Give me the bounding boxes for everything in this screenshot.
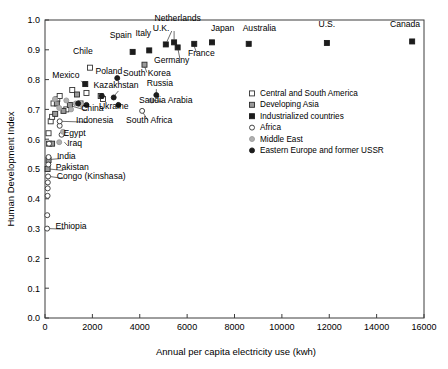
point-label: U.K. (153, 23, 170, 33)
data-point (46, 155, 51, 160)
data-point (64, 98, 69, 103)
x-tick-label: 0 (42, 322, 47, 332)
data-point (140, 108, 145, 113)
data-point (209, 40, 214, 45)
y-tick-label: 0.8 (27, 75, 40, 85)
x-tick-label: 4000 (130, 322, 150, 332)
point-label: Japan (211, 23, 235, 33)
legend-marker (250, 148, 255, 153)
point-label: South Africa (126, 115, 173, 125)
data-point (46, 131, 51, 136)
data-point (53, 111, 58, 116)
data-point (83, 82, 88, 87)
point-label: Kazakhstan (94, 80, 139, 90)
x-tick-label: 6000 (177, 322, 197, 332)
point-label: Iraq (67, 138, 82, 148)
point-label: Indonesia (76, 115, 113, 125)
data-point (130, 49, 135, 54)
data-point (74, 92, 79, 97)
data-point (57, 93, 62, 98)
legend-marker (250, 114, 255, 119)
point-label: Netherlands (154, 13, 200, 23)
plot-frame (45, 20, 424, 318)
point-label: Australia (243, 23, 277, 33)
x-tick-label: 12000 (317, 322, 342, 332)
data-point (46, 162, 51, 167)
legend-marker (250, 137, 255, 142)
point-label: Congo (Kinshasa) (57, 171, 126, 181)
legend-marker (250, 125, 255, 130)
y-axis-title: Human Development Index (5, 111, 16, 226)
legend-item-eastern_europe_ussr[interactable]: Eastern Europe and former USSR (250, 146, 384, 155)
y-tick-label: 0.9 (27, 45, 40, 55)
legend-marker (250, 91, 255, 96)
point-label: Italy (135, 28, 151, 38)
axes-frame (45, 20, 424, 318)
point-label: Mexico (52, 70, 79, 80)
y-tick-label: 1.0 (27, 15, 40, 25)
point-label: Egypt (64, 128, 87, 138)
y-tick-label: 0.2 (27, 254, 40, 264)
data-point (99, 93, 104, 98)
y-tick-label: 0.3 (27, 224, 40, 234)
data-point (57, 140, 62, 145)
data-point (172, 40, 177, 45)
point-labels: CanadaU.S.AustraliaJapanNetherlandsU.K.G… (52, 13, 420, 231)
x-axis-title: Annual per capita electricity use (kwh) (156, 346, 316, 357)
data-point (147, 48, 152, 53)
data-point (88, 65, 93, 70)
x-tick-label: 14000 (364, 322, 389, 332)
legend-label: Central and South America (260, 89, 358, 98)
point-label: Germany (154, 55, 190, 65)
scatter-chart-figure: 0200040006000800010000120001400016000 0.… (0, 0, 448, 369)
point-label: Spain (110, 30, 132, 40)
point-label: Chile (73, 46, 93, 56)
point-label: Canada (390, 19, 420, 29)
x-axis-ticks: 0200040006000800010000120001400016000 (42, 314, 436, 332)
chart-canvas: 0200040006000800010000120001400016000 0.… (0, 0, 448, 369)
legend-item-central_south_america[interactable]: Central and South America (250, 89, 359, 98)
legend-label: Middle East (260, 135, 304, 144)
data-point (47, 141, 52, 146)
legend-item-developing_asia[interactable]: Developing Asia (250, 100, 320, 109)
data-point (57, 105, 62, 110)
legend-item-middle_east[interactable]: Middle East (250, 135, 304, 144)
point-label: China (81, 103, 104, 113)
point-label: Russia (147, 78, 173, 88)
point-label: South Korea (123, 68, 171, 78)
y-tick-label: 0.0 (27, 313, 40, 323)
y-tick-label: 0.4 (27, 194, 40, 204)
data-point (76, 101, 81, 106)
legend-marker (250, 102, 255, 107)
data-point (52, 96, 57, 101)
point-label: India (57, 151, 76, 161)
data-point (45, 213, 50, 218)
data-point (46, 174, 51, 179)
y-tick-label: 0.6 (27, 135, 40, 145)
data-point (45, 180, 50, 185)
point-label: Poland (96, 66, 123, 76)
legend-item-industrialized[interactable]: Industrialized countries (250, 112, 344, 121)
data-point (111, 95, 116, 100)
data-point (70, 88, 75, 93)
data-point (142, 62, 147, 67)
data-point (192, 41, 197, 46)
data-point (175, 45, 180, 50)
data-point (163, 42, 168, 47)
point-label: U.S. (319, 19, 336, 29)
data-point (324, 40, 329, 45)
data-point (45, 193, 50, 198)
point-label: Ethiopia (56, 221, 87, 231)
legend-label: Eastern Europe and former USSR (260, 146, 384, 155)
data-point (84, 91, 89, 96)
chart-legend[interactable]: Central and South AmericaDeveloping Asia… (250, 89, 384, 155)
data-point (246, 41, 251, 46)
y-tick-label: 0.1 (27, 284, 40, 294)
x-tick-label: 8000 (224, 322, 244, 332)
data-point (45, 186, 50, 191)
legend-label: Developing Asia (260, 100, 319, 109)
x-tick-label: 10000 (269, 322, 294, 332)
x-tick-label: 2000 (82, 322, 102, 332)
y-tick-label: 0.5 (27, 164, 40, 174)
legend-item-africa[interactable]: Africa (250, 123, 282, 132)
